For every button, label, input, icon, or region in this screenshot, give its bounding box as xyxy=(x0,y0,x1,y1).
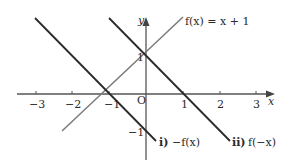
tick-x-neg1: −1 xyxy=(104,98,120,111)
tick-x-1: 1 xyxy=(181,98,188,111)
tick-x-neg2: −2 xyxy=(65,98,81,111)
tick-x-3: 3 xyxy=(253,98,260,111)
label-f-neg-x: f(−x) xyxy=(248,136,276,149)
x-axis-label: x xyxy=(268,95,275,108)
label-ii-prefix: ii) xyxy=(232,136,246,149)
label-neg-f-x: −f(x) xyxy=(172,136,200,149)
label-f-x: f(x) = x + 1 xyxy=(185,15,249,28)
tick-y-neg1: −1 xyxy=(128,126,144,139)
tick-x-neg3: −3 xyxy=(29,98,45,111)
function-graph: −3 −2 −1 1 2 3 x y 1 −1 O f(x) = x + 1 i… xyxy=(0,0,286,160)
tick-y-1: 1 xyxy=(137,51,144,64)
line-neg-f-x xyxy=(35,18,156,141)
y-axis-label: y xyxy=(137,14,145,27)
tick-x-2: 2 xyxy=(217,98,224,111)
label-i-prefix: i) xyxy=(159,136,168,149)
origin-label: O xyxy=(137,94,146,107)
line-f-neg-x xyxy=(109,18,230,141)
